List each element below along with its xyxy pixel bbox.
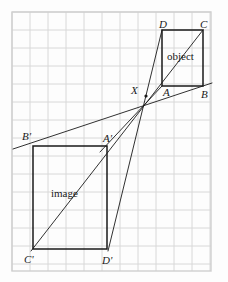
point-label-d: D bbox=[159, 19, 167, 30]
point-label-c: C bbox=[200, 19, 207, 30]
point-label-c-prime: C' bbox=[24, 254, 34, 265]
figure-canvas: object image X A B C D A' B' C' D' bbox=[0, 0, 228, 282]
object-caption: object bbox=[167, 51, 194, 62]
centre-dot bbox=[144, 94, 147, 97]
image-caption: image bbox=[51, 188, 78, 199]
geometry-diagram bbox=[0, 0, 228, 282]
ray-C-X-Cprime bbox=[31, 30, 203, 251]
point-label-x: X bbox=[131, 85, 138, 96]
ray-D-X-Dprime bbox=[108, 30, 162, 251]
point-label-a-prime: A' bbox=[103, 133, 112, 144]
projection-rays bbox=[13, 30, 212, 251]
point-label-d-prime: D' bbox=[102, 255, 112, 266]
point-label-a: A bbox=[163, 87, 170, 98]
point-label-b: B bbox=[201, 89, 208, 100]
point-label-b-prime: B' bbox=[22, 131, 31, 142]
centre-point-x bbox=[144, 94, 147, 97]
